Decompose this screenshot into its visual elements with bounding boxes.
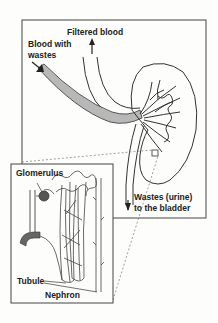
label-blood-with-wastes-line1: Blood with bbox=[28, 39, 71, 49]
label-filtered-blood: Filtered blood bbox=[67, 27, 123, 37]
kidney-outline bbox=[131, 63, 197, 184]
glomerulus bbox=[39, 191, 49, 201]
renal-artery bbox=[38, 64, 142, 123]
filtered-arrow-icon bbox=[89, 38, 95, 45]
label-nephron: Nephron bbox=[45, 290, 80, 300]
label-tubule: Tubule bbox=[17, 276, 44, 286]
label-blood-with-wastes-line2: wastes bbox=[28, 50, 56, 60]
label-wastes-urine-line2: to the bladder bbox=[134, 203, 190, 213]
urine-arrow-icon bbox=[125, 203, 131, 211]
nephron-marker bbox=[152, 150, 158, 156]
kidney-vessels bbox=[140, 80, 180, 152]
label-wastes-urine-line1: Wastes (urine) bbox=[134, 192, 192, 202]
label-glomerulus: Glomerulus bbox=[16, 168, 63, 178]
